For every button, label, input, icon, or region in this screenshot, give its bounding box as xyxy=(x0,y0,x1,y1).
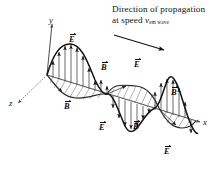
x-axis-label: x xyxy=(203,117,207,127)
vector-arrow-icon xyxy=(164,145,170,148)
caption-line-2: at speed vem wave xyxy=(112,15,169,26)
e-label-2: E xyxy=(134,58,140,69)
propagation-arrow xyxy=(114,35,164,50)
vector-arrow-icon xyxy=(99,121,105,124)
b-label-3: B xyxy=(133,120,139,131)
e-label-3: E xyxy=(99,121,105,132)
e-label-1: E xyxy=(69,33,75,44)
e-field-arrows-4 xyxy=(155,79,185,118)
vector-symbol: E xyxy=(69,35,75,44)
vector-symbol: E xyxy=(134,60,140,69)
caption-speed-prefix: at speed xyxy=(112,15,145,25)
vector-symbol: B xyxy=(133,122,139,131)
b-label-1: B xyxy=(64,100,70,111)
caption-line-1: Direction of propagation xyxy=(112,4,205,14)
vector-arrow-icon xyxy=(171,86,177,89)
e-label-4: E xyxy=(164,145,170,156)
vector-symbol: E xyxy=(99,123,105,132)
speed-subscript: em wave xyxy=(149,19,169,25)
vector-arrow-icon xyxy=(64,100,70,103)
vector-symbol: B xyxy=(64,102,70,111)
vector-symbol: B xyxy=(101,63,107,72)
z-axis-label: z xyxy=(9,98,12,108)
vector-arrow-icon xyxy=(101,61,107,64)
vector-symbol: E xyxy=(164,147,170,156)
z-axis-line xyxy=(18,75,47,103)
vector-arrow-icon xyxy=(134,58,140,61)
b-label-4: B xyxy=(171,86,177,97)
vector-arrow-icon xyxy=(69,33,75,36)
e-field-arrows-1 xyxy=(53,45,95,91)
vector-symbol: B xyxy=(171,88,177,97)
b-label-2: B xyxy=(101,61,107,72)
b-wave-lobe-2 xyxy=(107,85,160,110)
vector-arrow-icon xyxy=(133,120,139,123)
y-axis-label: y xyxy=(49,15,53,25)
